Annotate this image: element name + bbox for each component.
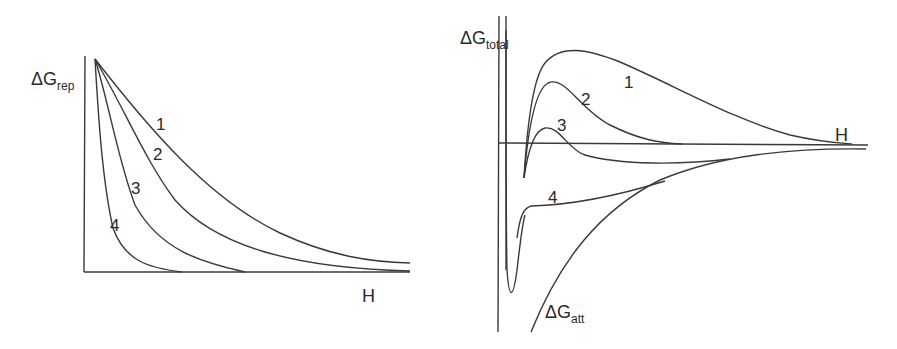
y-axis-label: ΔGtotal <box>460 29 509 51</box>
curve-1 <box>95 59 410 263</box>
repulsion-curves <box>0 0 450 349</box>
curve-label-1: 1 <box>624 74 633 91</box>
curve-4 <box>95 59 182 272</box>
curve-label-2: 2 <box>581 91 590 108</box>
curve-label-3: 3 <box>557 117 566 134</box>
repulsion-diagram: ΔGrep H 1 2 3 4 <box>0 0 450 349</box>
attraction-label: ΔGatt <box>545 303 584 325</box>
curve-label-3: 3 <box>131 180 140 197</box>
primary-minimum <box>506 30 525 293</box>
curve-3 <box>95 59 245 272</box>
total-energy-curves <box>450 0 897 349</box>
y-axis <box>84 56 85 272</box>
x-axis-label: H <box>835 126 848 144</box>
zero-line <box>499 143 868 145</box>
curve-label-4: 4 <box>548 189 557 206</box>
x-axis-label: H <box>362 287 375 305</box>
curve-label-4: 4 <box>110 217 119 234</box>
curve-2 <box>95 59 410 271</box>
curve-label-1: 1 <box>156 116 165 133</box>
y-axis-outer <box>498 16 499 332</box>
curve-3 <box>524 128 730 178</box>
total-energy-diagram: ΔGtotal H 1 2 3 4 ΔGatt <box>450 0 897 349</box>
y-axis-label: ΔGrep <box>31 70 74 92</box>
curve-1 <box>524 50 852 178</box>
curve-label-2: 2 <box>153 146 162 163</box>
